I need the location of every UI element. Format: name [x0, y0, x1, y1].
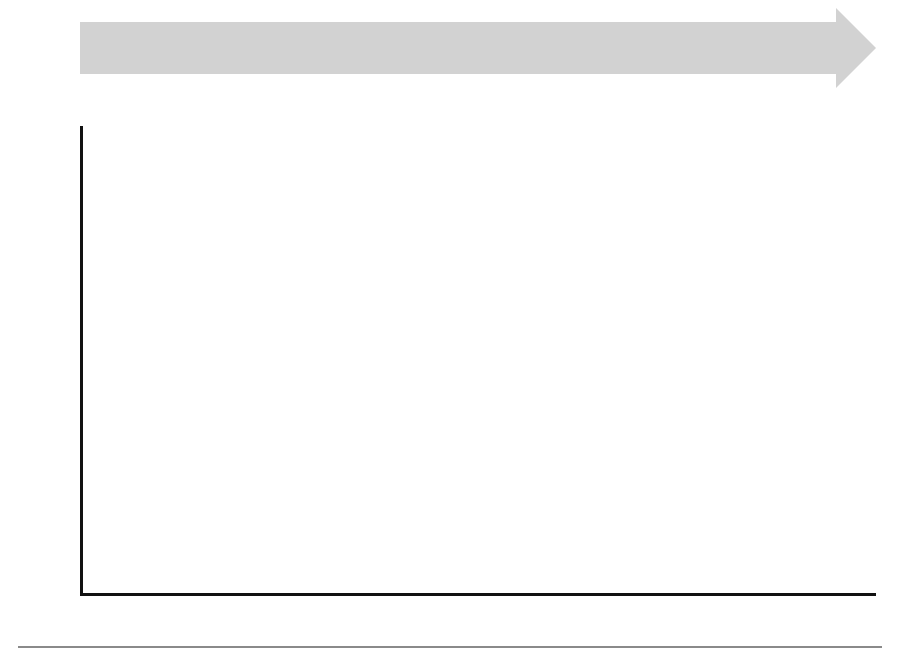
- plot-area: [80, 126, 880, 593]
- chart-figure: [0, 0, 900, 666]
- caption-divider: [18, 646, 882, 648]
- timeline-arrowhead: [836, 8, 876, 88]
- x-axis: [80, 593, 876, 596]
- timeline-band: [80, 22, 840, 74]
